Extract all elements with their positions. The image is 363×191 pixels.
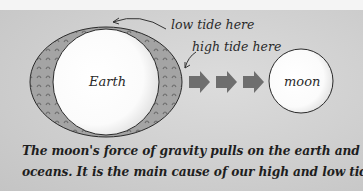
high-tide-label: high tide here <box>192 39 281 54</box>
low-tide-label: low tide here <box>171 17 254 32</box>
high-tide-pointer <box>185 52 196 68</box>
caption-line-2: oceans. It is the main cause of our high… <box>22 162 352 183</box>
arrow-right-icon <box>189 71 210 93</box>
moon-label: moon <box>284 74 320 89</box>
low-tide-pointer <box>113 18 166 29</box>
arrow-right-icon <box>216 71 237 93</box>
gravity-arrows <box>189 71 264 93</box>
caption: The moon's force of gravity pulls on the… <box>22 141 352 183</box>
caption-line-1: The moon's force of gravity pulls on the… <box>22 141 352 162</box>
earth-label: Earth <box>89 74 126 89</box>
arrow-right-icon <box>243 71 264 93</box>
